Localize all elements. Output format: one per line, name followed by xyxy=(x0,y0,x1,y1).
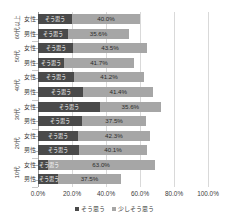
category-axis: 女性男性女性男性女性男性女性男性女性男性女性男性60代以上50代40代30代20… xyxy=(0,12,38,187)
bar-row: そう思う40.0% xyxy=(38,12,208,27)
chart-legend: そう思う少しそう思う xyxy=(0,203,229,215)
bar-segment-label-dark: そう思う xyxy=(39,102,99,112)
category-group-label: 40代 xyxy=(2,70,31,99)
bar-value-label: 43.5% xyxy=(73,43,147,53)
bar-row: そう思う37.5% xyxy=(38,172,208,187)
legend-swatch xyxy=(75,207,79,211)
legend-swatch xyxy=(112,207,116,211)
bar-value-label: 37.5% xyxy=(58,174,122,184)
bar-row: そう思う42.3% xyxy=(38,129,208,144)
x-axis-tick-label: 60.0% xyxy=(131,188,149,200)
bar-segment-label-dark: そう思う xyxy=(39,43,72,53)
x-axis-tick-label: 100.0% xyxy=(197,188,219,200)
bar-segment-label-dark: そう思う xyxy=(39,160,47,170)
bar-row: そう思う41.7% xyxy=(38,56,208,71)
category-group-label: 50代 xyxy=(2,41,31,70)
bar-segment-label-dark: そう思う xyxy=(39,174,57,184)
bar-value-label: 41.4% xyxy=(83,87,153,97)
category-group-label: 30代 xyxy=(2,100,31,129)
bar-value-label: 37.5% xyxy=(82,116,146,126)
x-axis-tick-label: 40.0% xyxy=(97,188,115,200)
x-axis: 0.0%20.0%40.0%60.0%80.0%100.0% xyxy=(0,188,229,200)
bar-row: そう思う40.1% xyxy=(38,143,208,158)
bar-segment-label-dark: そう思う xyxy=(39,131,77,141)
bar-value-label: 41.7% xyxy=(64,58,135,68)
x-axis-tick-label: 20.0% xyxy=(63,188,81,200)
category-group-label: 20代 xyxy=(2,129,31,158)
bar-row: そう思う35.6% xyxy=(38,27,208,42)
x-axis-tick-label: 0.0% xyxy=(31,188,46,200)
bar-segment-label-dark: そう思う xyxy=(39,29,67,39)
legend-label: そう思う xyxy=(81,206,105,212)
bar-row: そう思う41.2% xyxy=(38,70,208,85)
bar-segment-label-dark: そう思う xyxy=(39,72,73,82)
gridline xyxy=(208,12,209,187)
bar-value-label: 42.3% xyxy=(78,131,150,141)
bar-value-label: 35.6% xyxy=(68,29,129,39)
category-group-label: 10代 xyxy=(2,158,31,187)
legend-label: 少しそう思う xyxy=(118,206,154,212)
bar-value-label: 41.2% xyxy=(74,72,144,82)
bar-value-label: 40.0% xyxy=(72,14,140,24)
bar-row: そう思う35.6% xyxy=(38,100,208,115)
legend-item[interactable]: 少しそう思う xyxy=(112,206,154,212)
bar-value-label: 35.6% xyxy=(100,102,161,112)
plot-area: そう思う40.0%そう思う35.6%そう思う43.5%そう思う41.7%そう思う… xyxy=(38,12,208,187)
bar-segment-label-dark: そう思う xyxy=(39,58,63,68)
bar-row: そう思う43.5% xyxy=(38,41,208,56)
bar-segment-label-dark: そう思う xyxy=(39,116,81,126)
bar-segment-label-dark: そう思う xyxy=(39,87,82,97)
legend-item[interactable]: そう思う xyxy=(75,206,105,212)
bar-segment-label-dark: そう思う xyxy=(39,14,71,24)
bar-row: そう思う63.0% xyxy=(38,158,208,173)
bar-value-label: 63.0% xyxy=(48,160,155,170)
category-group-label: 60代以上 xyxy=(2,12,31,41)
bar-row: そう思う41.4% xyxy=(38,85,208,100)
stacked-bar-chart: 女性男性女性男性女性男性女性男性女性男性女性男性60代以上50代40代30代20… xyxy=(0,0,229,223)
bar-segment-label-dark: そう思う xyxy=(39,145,78,155)
x-axis-tick-label: 80.0% xyxy=(165,188,183,200)
bar-row: そう思う37.5% xyxy=(38,114,208,129)
bar-rows: そう思う40.0%そう思う35.6%そう思う43.5%そう思う41.7%そう思う… xyxy=(38,12,208,187)
bar-value-label: 40.1% xyxy=(79,145,147,155)
